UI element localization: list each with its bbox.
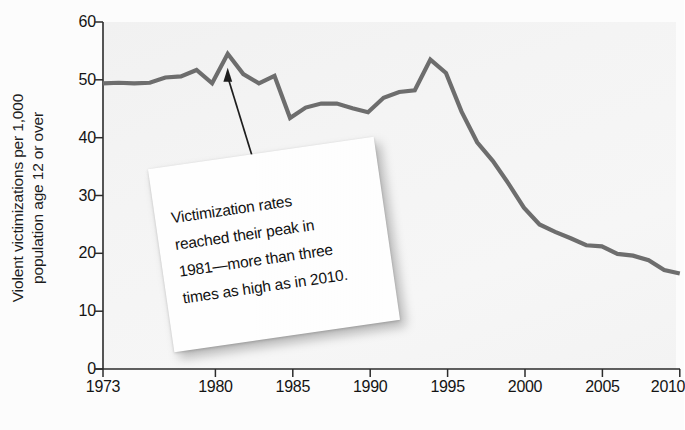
x-tick-marks bbox=[103, 369, 680, 377]
y-tick-marks bbox=[95, 22, 103, 369]
annotation-callout: Victimization rates reached their peak i… bbox=[148, 137, 400, 353]
annotation-callout-text: Victimization rates reached their peak i… bbox=[169, 176, 382, 311]
